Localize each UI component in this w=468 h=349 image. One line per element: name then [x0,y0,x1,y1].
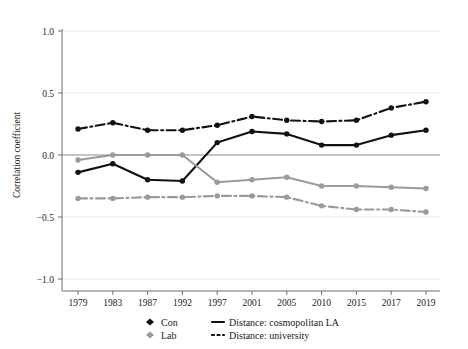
data-point [145,128,150,133]
legend-label: Distance: university [229,330,309,341]
y-tick-label: 0.5 [42,89,54,99]
x-tick-label: 1987 [138,298,157,308]
legend-item[interactable]: Distance: cosmopolitan LA [212,317,340,328]
data-point [319,119,324,124]
data-point [110,161,115,166]
data-point [389,105,394,110]
y-tick-label: −0.5 [37,213,54,223]
data-point [423,209,428,214]
data-point [423,186,428,191]
data-point [180,128,185,133]
data-point [215,140,220,145]
data-point [110,152,115,157]
data-point [215,180,220,185]
x-tick-label: 1997 [208,298,227,308]
data-point [75,170,80,175]
data-point [110,196,115,201]
data-point [284,194,289,199]
data-point [423,99,428,104]
data-point [145,194,150,199]
data-point [215,193,220,198]
x-tick-label: 2019 [417,298,436,308]
data-point [145,177,150,182]
data-point [284,175,289,180]
y-tick-label: −1.0 [37,275,54,285]
data-point [110,120,115,125]
data-point [423,128,428,133]
data-point [249,193,254,198]
data-point [284,131,289,136]
data-point [354,183,359,188]
data-point [319,142,324,147]
data-point [389,132,394,137]
x-tick-label: 2005 [277,298,296,308]
legend-item[interactable]: Con [146,317,178,328]
correlation-chart: 1.00.50.0−0.5−1.0Correlation coefficient… [0,0,468,349]
y-tick-label: 1.0 [42,27,54,37]
legend-label: Lab [161,330,177,341]
legend-item[interactable]: Lab [146,330,177,341]
x-tick-label: 2015 [347,298,366,308]
x-tick-label: 1992 [173,298,192,308]
data-point [354,142,359,147]
data-point [249,129,254,134]
data-point [75,126,80,131]
series-1 [75,99,428,133]
data-point [319,203,324,208]
axes [62,29,440,291]
chart-canvas: 1.00.50.0−0.5−1.0Correlation coefficient… [0,0,468,349]
legend-label: Con [161,317,178,328]
y-axis-ticks: 1.00.50.0−0.5−1.0 [37,27,62,285]
y-tick-label: 0.0 [42,151,54,161]
data-point [249,177,254,182]
data-point [145,152,150,157]
data-point [75,196,80,201]
x-tick-label: 2017 [382,298,401,308]
data-point [180,152,185,157]
data-point [249,114,254,119]
x-tick-label: 1979 [69,298,88,308]
legend-marker-icon [146,332,154,339]
data-point [354,118,359,123]
data-point [75,157,80,162]
series-3 [75,193,428,215]
data-point [389,207,394,212]
legend: ConLabDistance: cosmopolitan LADistance:… [146,317,340,341]
legend-item[interactable]: Distance: university [212,330,309,341]
data-point [284,118,289,123]
legend-marker-icon [146,319,154,326]
y-axis-title: Correlation coefficient [12,112,22,198]
x-tick-label: 2001 [243,298,262,308]
x-axis-ticks: 1979198319871992199720012005201020152017… [69,291,436,308]
data-point [180,178,185,183]
data-point [215,123,220,128]
x-tick-label: 2010 [312,298,331,308]
data-point [389,185,394,190]
data-point [354,207,359,212]
data-point [319,183,324,188]
data-point [180,194,185,199]
legend-label: Distance: cosmopolitan LA [229,317,340,328]
x-tick-label: 1983 [103,298,122,308]
